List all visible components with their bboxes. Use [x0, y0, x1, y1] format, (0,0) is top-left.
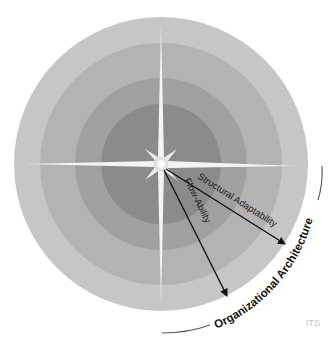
compass-diagram: Structural Adaptability Flow-Ability Org… — [0, 0, 336, 347]
watermark: ITS — [306, 318, 320, 328]
arc-right — [318, 166, 322, 200]
arc-bottom — [162, 325, 210, 333]
